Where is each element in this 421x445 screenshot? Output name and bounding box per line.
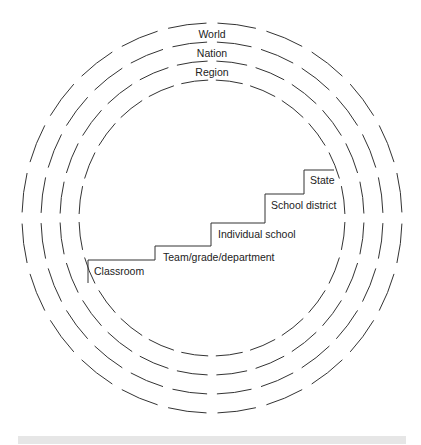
circle-dash-segment [60,223,64,255]
circle-dash-segment [323,110,342,135]
circle-dash-segment [397,173,402,212]
label-world: World [198,28,225,40]
circle-dash-segment [218,408,256,413]
circle-dash-segment [360,223,364,255]
circle-dash-segment [261,49,293,63]
dashed-concentric-circles [22,23,402,413]
circle-dash-segment [85,153,95,179]
circle-dash-segment [50,84,74,116]
circle-dash-segment [397,224,402,263]
circle-dash-segment [336,97,357,125]
circle-dash-segment [256,68,285,80]
circle-dash-segment [48,268,61,301]
circle-dash-segment [131,49,163,63]
circle-dash-segment [266,31,302,46]
circle-dash-segment [363,134,376,167]
circle-dash-segment [312,360,343,384]
bottom-shadow-band [18,436,406,444]
circle-dash-segment [177,371,208,375]
circle-dash-segment [181,80,208,84]
circle-dash-segment [177,61,208,65]
circle-dash-segment [173,389,208,394]
circle-dash-segment [30,125,45,162]
circle-dash-segment [341,186,345,214]
circle-dash-segment [312,52,343,76]
circle-dash-segment [66,143,78,173]
circle-dash-segment [302,346,330,368]
circle-dash-segment [140,68,169,80]
circle-dash-segment [121,318,143,335]
circle-dash-segment [350,84,374,116]
circle-dash-segment [329,258,339,284]
nested-levels-diagram: World Nation Region Classroom Team/grade… [0,0,421,445]
circle-dash-segment [22,173,27,212]
circle-dash-segment [346,263,358,293]
circle-dash-segment [122,390,158,405]
circle-dash-segment [82,360,113,384]
circle-dash-segment [282,318,304,335]
circle-dash-segment [99,290,116,312]
circle-dash-segment [363,268,376,301]
circle-dash-segment [282,101,304,118]
circle-dash-segment [216,352,243,356]
circle-dash-segment [216,61,247,65]
circle-dash-segment [83,110,102,135]
label-classroom: Classroom [94,265,144,277]
circle-dash-segment [108,84,133,103]
circle-dash-segment [217,389,252,394]
label-team-grade-department: Team/grade/department [163,251,275,263]
circle-dash-segment [95,346,123,368]
circle-dash-segment [122,31,158,46]
circle-dash-segment [79,186,83,214]
circle-dash-segment [266,390,302,405]
circle-dash-segment [309,123,326,145]
circle-dash-segment [378,223,383,259]
circle-dash-segment [250,86,275,97]
circle-dash-segment [66,263,78,293]
label-region: Region [195,66,228,78]
circle-dash-segment [95,68,123,90]
circle-dash-segment [48,134,61,167]
circle-dash-segment [149,339,174,350]
circle-dash-segment [216,371,247,375]
circle-dash-segment [379,125,394,162]
circle-dash-segment [22,224,27,263]
circle-dash-segment [309,290,326,312]
circle-dash-segment [30,274,45,311]
circle-dash-segment [302,68,330,90]
circle-dash-segment [346,143,358,173]
circle-dash-segment [379,274,394,311]
circle-dash-segment [341,222,345,250]
circle-dash-segment [350,320,374,352]
circle-dash-segment [131,373,163,387]
circle-dash-segment [336,310,357,338]
circle-dash-segment [79,222,83,250]
circle-dash-segment [108,332,133,351]
circle-dash-segment [360,182,364,214]
circle-dash-segment [50,320,74,352]
circle-dash-segment [250,339,275,350]
circle-dash-segment [168,408,206,413]
circle-dash-segment [149,86,174,97]
circle-dash-segment [292,84,317,103]
circle-dash-segment [378,177,383,213]
label-school-district: School district [271,199,336,211]
circle-dash-segment [216,80,243,84]
circle-dash-segment [292,332,317,351]
circle-dash-segment [121,101,143,118]
circle-dash-segment [60,182,64,214]
circle-dash-segment [41,223,46,259]
circle-dash-segment [99,123,116,145]
label-individual-school: Individual school [218,228,296,240]
circle-dash-segment [181,352,208,356]
circle-dash-segment [261,373,293,387]
label-nation: Nation [197,47,228,59]
circle-dash-segment [66,97,87,125]
circle-dash-segment [140,356,169,368]
circle-dash-segment [323,300,342,325]
circle-dash-segment [41,177,46,213]
circle-dash-segment [66,310,87,338]
label-state: State [310,174,335,186]
circle-dash-segment [82,52,113,76]
circle-dash-segment [256,356,285,368]
